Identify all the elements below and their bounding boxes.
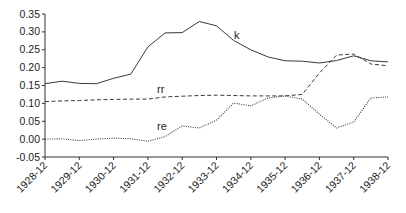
x-tick-label: 1935-12 [254, 159, 290, 195]
line-chart: 0.350.300.250.200.150.100.050.00-0.05 19… [0, 0, 406, 213]
series-label-re: re [157, 120, 167, 132]
y-tick-label: 0.15 [20, 79, 41, 91]
x-tick-label: 1933-12 [185, 159, 221, 195]
series-line-re [45, 96, 388, 141]
x-tick-label: 1929-12 [48, 159, 84, 195]
y-tick-label: 0.05 [20, 115, 41, 127]
y-tick-label: 0.25 [20, 43, 41, 55]
x-tick-label: 1936-12 [288, 159, 324, 195]
x-tick-label: 1931-12 [117, 159, 153, 195]
x-tick-label: 1937-12 [322, 159, 358, 195]
y-tick-label: 0.30 [20, 25, 41, 37]
y-tick-label: -0.05 [16, 151, 40, 163]
x-tick-label: 1930-12 [82, 159, 118, 195]
x-tick-label: 1932-12 [151, 159, 187, 195]
series-line-rr [45, 54, 388, 102]
x-tick-label: 1938-12 [357, 159, 393, 195]
y-tick-label: 0.10 [20, 97, 41, 109]
y-tick-label: 0.20 [20, 61, 41, 73]
series-label-rr: rr [157, 83, 165, 95]
axes [42, 14, 388, 160]
x-axis-tick-labels: 1928-121929-121930-121931-121932-121933-… [14, 159, 393, 195]
series-lines [45, 22, 388, 142]
x-tick-label: 1934-12 [219, 159, 255, 195]
series-line-k [45, 22, 388, 84]
x-tick-label: 1928-12 [14, 159, 50, 195]
y-axis-tick-labels: 0.350.300.250.200.150.100.050.00-0.05 [16, 8, 40, 163]
y-tick-label: 0.00 [20, 133, 41, 145]
series-label-k: k [234, 29, 240, 41]
y-tick-label: 0.35 [20, 8, 41, 20]
